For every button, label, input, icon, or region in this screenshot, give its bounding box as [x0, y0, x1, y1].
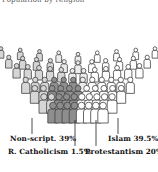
label-islam: Islam 39.5%: [108, 134, 158, 143]
person-icon: [30, 85, 39, 103]
person-icon: [117, 85, 126, 103]
label-catholic: R. Catholicism 1.5%: [8, 147, 91, 156]
person-icon: [136, 63, 143, 78]
person-icon: [0, 47, 4, 58]
person-icon: [56, 51, 62, 62]
person-icon: [130, 56, 136, 69]
person-icon: [6, 55, 12, 68]
person-icon: [13, 63, 20, 78]
person-icon: [107, 94, 117, 114]
person-icon: [126, 77, 134, 93]
person-icon: [144, 55, 150, 68]
person-icon: [98, 102, 108, 123]
person-icon: [94, 51, 100, 62]
person-icon: [75, 61, 81, 74]
person-icon: [152, 47, 158, 58]
label-nonscript: Non-script. 39%: [10, 134, 76, 143]
person-icon: [22, 77, 30, 93]
label-protestant: Protestantism 20%: [85, 147, 158, 156]
person-icon: [19, 56, 25, 69]
